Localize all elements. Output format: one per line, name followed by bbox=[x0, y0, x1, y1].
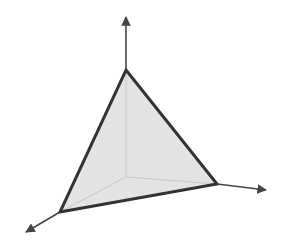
simplex-diagram bbox=[0, 0, 282, 248]
simplex-diagram-svg bbox=[0, 0, 282, 248]
right-axis-arrow-icon bbox=[217, 184, 266, 190]
simplex-face bbox=[60, 70, 217, 212]
left-axis-arrow-icon bbox=[26, 212, 60, 232]
